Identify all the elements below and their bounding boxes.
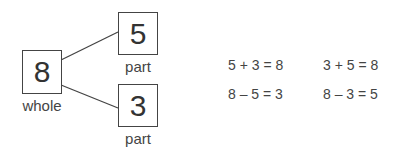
part-label-bottom: part: [108, 130, 168, 147]
equation: 5 + 3 = 8: [228, 57, 283, 73]
whole-value: 8: [34, 55, 51, 89]
whole-box: 8: [22, 50, 62, 94]
part-value-top: 5: [130, 17, 147, 51]
equation: 8 – 5 = 3: [228, 86, 283, 102]
equation: 3 + 5 = 8: [323, 57, 378, 73]
whole-label: whole: [12, 97, 72, 114]
part-box-bottom: 3: [118, 84, 158, 127]
connector-line-top: [61, 32, 118, 60]
part-value-bottom: 3: [130, 89, 147, 123]
part-label-top: part: [108, 58, 168, 75]
part-box-top: 5: [118, 12, 158, 55]
equation: 8 – 3 = 5: [323, 86, 378, 102]
